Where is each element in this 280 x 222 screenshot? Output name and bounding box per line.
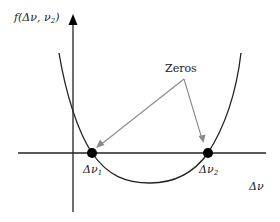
zero-label-1-symbol: Δν bbox=[83, 163, 98, 176]
x-axis-label: Δν bbox=[249, 181, 264, 192]
arrowhead-right-icon bbox=[199, 135, 206, 144]
y-axis-arrowhead-icon bbox=[69, 14, 78, 25]
y-axis-label-close: ) bbox=[55, 11, 59, 24]
zero-point-2 bbox=[203, 148, 213, 158]
zero-label-1-subscript: 1 bbox=[98, 169, 102, 177]
y-axis-label: f(Δν, ν2) bbox=[14, 12, 59, 25]
callout-arrow-left bbox=[99, 79, 184, 146]
zeros-callout-label: Zeros bbox=[165, 63, 197, 74]
zero-label-2-symbol: Δν bbox=[199, 163, 214, 176]
callout-arrow-right bbox=[184, 79, 202, 139]
function-plot bbox=[0, 0, 280, 222]
zero-point-1 bbox=[87, 148, 97, 158]
arrowhead-left-icon bbox=[96, 140, 105, 149]
zero-label-2: Δν2 bbox=[199, 164, 218, 177]
y-axis-label-text: f(Δν, ν bbox=[14, 11, 51, 24]
zero-label-1: Δν1 bbox=[83, 164, 102, 177]
zero-label-2-subscript: 2 bbox=[214, 169, 218, 177]
